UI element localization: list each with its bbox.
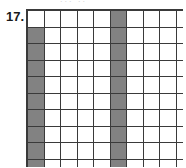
grid-cell-empty [61, 77, 77, 93]
grid-cell-empty [78, 28, 94, 44]
grid-cell-shaded [28, 143, 44, 159]
grid-cell-empty [78, 77, 94, 93]
grid-cell-empty [144, 94, 160, 110]
grid-cell-shaded [28, 77, 44, 93]
grid-cell-empty [127, 44, 143, 60]
grid-cell-empty [45, 44, 61, 60]
grid-cell-shaded [111, 28, 127, 44]
grid-cell-empty [144, 77, 160, 93]
grid-cell-shaded [111, 94, 127, 110]
grid-cell-shaded [28, 44, 44, 60]
grid-cell-shaded [111, 160, 127, 168]
clipped-text-artifact: ... .. [60, 0, 120, 2]
grid-cell-empty [177, 44, 184, 60]
grid-cell-empty [45, 127, 61, 143]
grid-cell-empty [127, 160, 143, 168]
grid-figure: ... .. 17. [0, 0, 186, 167]
grid-cell-empty [78, 61, 94, 77]
grid-cell-empty [78, 160, 94, 168]
grid-cell-empty [94, 77, 110, 93]
grid-cell-shaded [111, 11, 127, 27]
grid-cell-empty [94, 44, 110, 60]
grid-cell-empty [61, 94, 77, 110]
grid-cell-shaded [28, 127, 44, 143]
grid-cell-empty [127, 143, 143, 159]
grid-cell-empty [127, 94, 143, 110]
grid-cell-empty [144, 110, 160, 126]
grid-cell-empty [127, 77, 143, 93]
grid-cell-empty [177, 160, 184, 168]
grid-cell-empty [177, 77, 184, 93]
grid-cell-empty [78, 11, 94, 27]
grid-cell-empty [160, 11, 176, 27]
grid-cell-shaded [111, 143, 127, 159]
grid-cell-empty [160, 94, 176, 110]
grid-cell-empty [144, 143, 160, 159]
grid-cell-empty [78, 127, 94, 143]
grid-cell-shaded [28, 110, 44, 126]
grid-cell-empty [45, 143, 61, 159]
grid-cell-empty [94, 160, 110, 168]
grid-cell-empty [94, 61, 110, 77]
grid-cell-empty [144, 61, 160, 77]
grid-cell-empty [61, 61, 77, 77]
grid-cell-empty [45, 61, 61, 77]
grid-cell-empty [61, 160, 77, 168]
grid-cell-shaded [111, 44, 127, 60]
grid-cell-shaded [28, 160, 44, 168]
grid-cell-empty [127, 11, 143, 27]
grid-cell-empty [61, 143, 77, 159]
grid-cell-empty [160, 143, 176, 159]
grid-cell-empty [61, 127, 77, 143]
grid-cell-empty [94, 127, 110, 143]
grid-cell-empty [45, 110, 61, 126]
grid-cell-empty [45, 94, 61, 110]
grid-cell-empty [177, 28, 184, 44]
grid-cell-empty [177, 61, 184, 77]
grid-cell-shaded [28, 94, 44, 110]
grid-cell-shaded [28, 61, 44, 77]
grid-cell-empty [177, 127, 184, 143]
grid-cell-empty [160, 160, 176, 168]
grid-cell-empty [160, 127, 176, 143]
grid-cell-empty [94, 94, 110, 110]
shaded-fraction-grid [26, 9, 183, 167]
grid-cell-empty [61, 110, 77, 126]
item-number-label: 17. [2, 9, 24, 24]
grid-cell-empty [94, 28, 110, 44]
grid-cell-empty [94, 110, 110, 126]
grid-cell-empty [78, 143, 94, 159]
grid-cell-empty [160, 110, 176, 126]
grid-cell-shaded [111, 110, 127, 126]
grid-cell-empty [28, 11, 44, 27]
grid-cell-empty [127, 61, 143, 77]
grid-cell-empty [160, 28, 176, 44]
grid-cell-empty [127, 110, 143, 126]
grid-cell-shaded [111, 77, 127, 93]
grid-cell-empty [127, 28, 143, 44]
grid-cell-empty [160, 61, 176, 77]
grid-cell-shaded [111, 127, 127, 143]
grid-cell-empty [78, 110, 94, 126]
grid-cell-empty [94, 11, 110, 27]
grid-cell-empty [45, 11, 61, 27]
grid-cell-empty [177, 110, 184, 126]
grid-cell-empty [160, 44, 176, 60]
grid-cell-empty [177, 94, 184, 110]
grid-cell-empty [61, 11, 77, 27]
grid-cell-empty [45, 160, 61, 168]
grid-cell-empty [177, 143, 184, 159]
grid-cell-empty [127, 127, 143, 143]
grid-cell-empty [144, 28, 160, 44]
grid-cell-empty [78, 44, 94, 60]
grid-cell-empty [45, 28, 61, 44]
grid-cell-shaded [28, 28, 44, 44]
grid-cell-empty [144, 11, 160, 27]
grid-cell-empty [45, 77, 61, 93]
grid-cell-empty [144, 160, 160, 168]
grid-cell-empty [160, 77, 176, 93]
grid-cell-shaded [111, 61, 127, 77]
grid-cell-empty [144, 44, 160, 60]
grid-cell-empty [61, 44, 77, 60]
grid-cell-empty [94, 143, 110, 159]
